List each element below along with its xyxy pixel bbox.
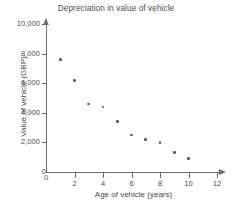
data-point xyxy=(59,58,62,61)
x-axis-title: Age of vehicle (years) xyxy=(46,190,221,199)
x-axis-tick-label: 10 xyxy=(177,179,201,188)
x-axis-tick xyxy=(189,173,190,178)
x-axis-tick xyxy=(160,173,161,178)
x-axis-tick-label: 6 xyxy=(120,179,144,188)
x-axis-tick-label: 0 xyxy=(34,173,58,182)
x-axis-tick-label: 8 xyxy=(148,179,172,188)
scatter-chart-figure: Depreciation in value of vehicle 02,0004… xyxy=(0,0,232,206)
data-point xyxy=(130,134,133,137)
data-point xyxy=(173,151,176,154)
data-point xyxy=(144,138,147,141)
x-axis-tick-label: 4 xyxy=(91,179,115,188)
y-axis-title: Value of vehicle (GBP) xyxy=(19,27,28,167)
data-point xyxy=(73,79,76,82)
x-axis-tick xyxy=(132,173,133,178)
x-axis-tick xyxy=(217,173,218,178)
x-axis-tick xyxy=(103,173,104,178)
data-point xyxy=(116,120,119,123)
x-axis-tick-label: 12 xyxy=(205,179,229,188)
chart-title: Depreciation in value of vehicle xyxy=(0,4,232,13)
x-axis-tick-label: 2 xyxy=(63,179,87,188)
x-axis-arrow-icon xyxy=(219,169,226,175)
x-axis-tick xyxy=(75,173,76,178)
data-point xyxy=(187,157,190,160)
plot-area xyxy=(47,22,220,173)
